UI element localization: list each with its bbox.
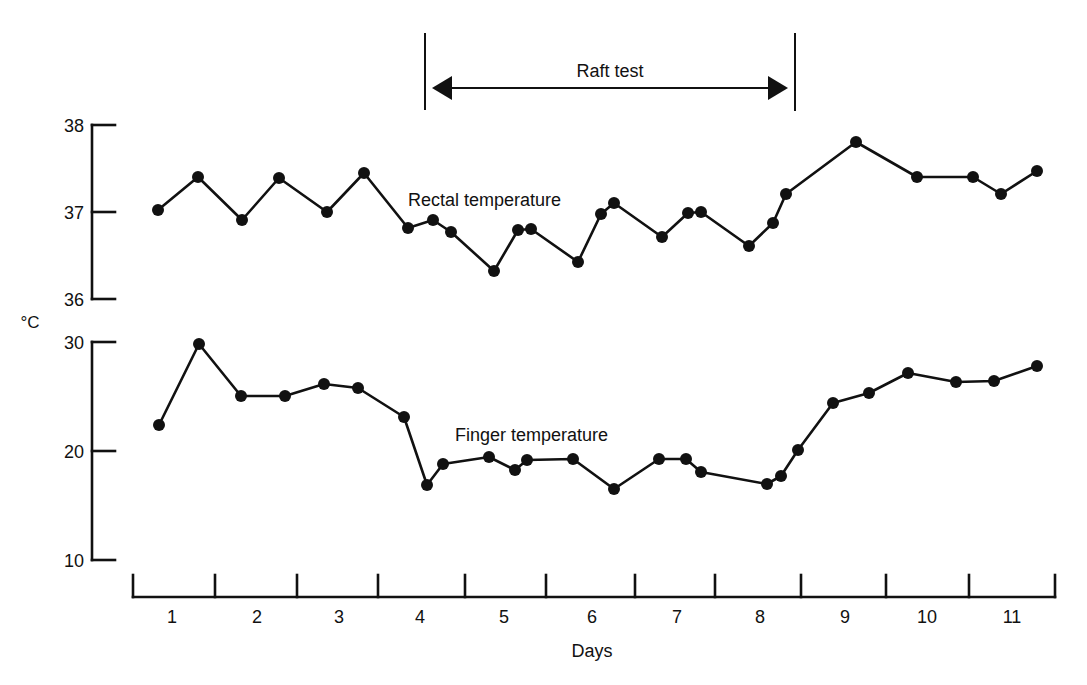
days-x-axis: 1234567891011 bbox=[133, 575, 1055, 627]
data-point bbox=[988, 375, 1000, 387]
data-point bbox=[967, 171, 979, 183]
data-point bbox=[950, 376, 962, 388]
data-point bbox=[902, 367, 914, 379]
data-point bbox=[318, 378, 330, 390]
data-point bbox=[595, 208, 607, 220]
data-point bbox=[682, 207, 694, 219]
data-point bbox=[572, 256, 584, 268]
rectal-temperature-series bbox=[152, 136, 1043, 277]
data-point bbox=[780, 188, 792, 200]
data-point bbox=[273, 172, 285, 184]
series-line bbox=[158, 142, 1037, 271]
axis-tick-label: 36 bbox=[64, 290, 84, 310]
data-point bbox=[192, 171, 204, 183]
finger-temperature-series bbox=[153, 338, 1043, 495]
raft-test-annotation: Raft test bbox=[425, 33, 795, 111]
x-tick-label: 3 bbox=[334, 607, 344, 627]
data-point bbox=[775, 470, 787, 482]
x-tick-label: 4 bbox=[415, 607, 425, 627]
data-point bbox=[358, 167, 370, 179]
series-line bbox=[159, 344, 1037, 489]
x-tick-label: 11 bbox=[1003, 607, 1022, 627]
data-point bbox=[509, 464, 521, 476]
data-point bbox=[352, 382, 364, 394]
data-point bbox=[512, 224, 524, 236]
data-point bbox=[850, 136, 862, 148]
finger-y-axis: 302010 bbox=[64, 333, 115, 571]
x-tick-label: 8 bbox=[755, 607, 765, 627]
data-point bbox=[1031, 165, 1043, 177]
axis-tick-label: 10 bbox=[64, 551, 84, 571]
data-point bbox=[525, 223, 537, 235]
data-point bbox=[995, 188, 1007, 200]
x-tick-label: 7 bbox=[672, 607, 682, 627]
data-point bbox=[743, 240, 755, 252]
finger-series-label: Finger temperature bbox=[455, 425, 608, 445]
data-point bbox=[863, 387, 875, 399]
data-point bbox=[567, 453, 579, 465]
axis-tick-label: 37 bbox=[64, 203, 84, 223]
x-axis-label: Days bbox=[571, 641, 612, 661]
data-point bbox=[152, 204, 164, 216]
data-point bbox=[321, 206, 333, 218]
data-point bbox=[483, 451, 495, 463]
data-point bbox=[695, 206, 707, 218]
data-point bbox=[421, 479, 433, 491]
axis-tick-label: 30 bbox=[64, 333, 84, 353]
data-point bbox=[193, 338, 205, 350]
y-axis-label: °C bbox=[20, 313, 39, 332]
data-point bbox=[445, 226, 457, 238]
rectal-y-axis: 383736 bbox=[64, 116, 115, 310]
axis-tick-label: 20 bbox=[64, 442, 84, 462]
data-point bbox=[695, 466, 707, 478]
data-point bbox=[235, 390, 247, 402]
data-point bbox=[827, 397, 839, 409]
x-tick-label: 2 bbox=[252, 607, 262, 627]
x-tick-label: 10 bbox=[917, 607, 937, 627]
data-point bbox=[437, 458, 449, 470]
data-point bbox=[1031, 360, 1043, 372]
data-point bbox=[608, 483, 620, 495]
data-point bbox=[761, 478, 773, 490]
data-point bbox=[279, 390, 291, 402]
axis-tick-label: 38 bbox=[64, 116, 84, 136]
left-arrowhead-icon bbox=[432, 76, 452, 100]
data-point bbox=[488, 265, 500, 277]
data-point bbox=[427, 214, 439, 226]
temperature-chart: Raft test 383736 302010 °C 1234567891011… bbox=[0, 0, 1087, 685]
x-tick-label: 6 bbox=[587, 607, 597, 627]
x-tick-label: 1 bbox=[167, 607, 177, 627]
data-point bbox=[911, 171, 923, 183]
data-point bbox=[653, 453, 665, 465]
data-point bbox=[608, 197, 620, 209]
data-point bbox=[656, 231, 668, 243]
data-point bbox=[236, 214, 248, 226]
data-point bbox=[402, 222, 414, 234]
raft-test-label: Raft test bbox=[576, 61, 643, 81]
data-point bbox=[680, 453, 692, 465]
x-tick-label: 9 bbox=[840, 607, 850, 627]
x-tick-label: 5 bbox=[499, 607, 509, 627]
rectal-series-label: Rectal temperature bbox=[408, 190, 561, 210]
data-point bbox=[521, 454, 533, 466]
data-point bbox=[398, 411, 410, 423]
data-point bbox=[792, 444, 804, 456]
right-arrowhead-icon bbox=[768, 76, 788, 100]
data-point bbox=[767, 217, 779, 229]
data-point bbox=[153, 419, 165, 431]
